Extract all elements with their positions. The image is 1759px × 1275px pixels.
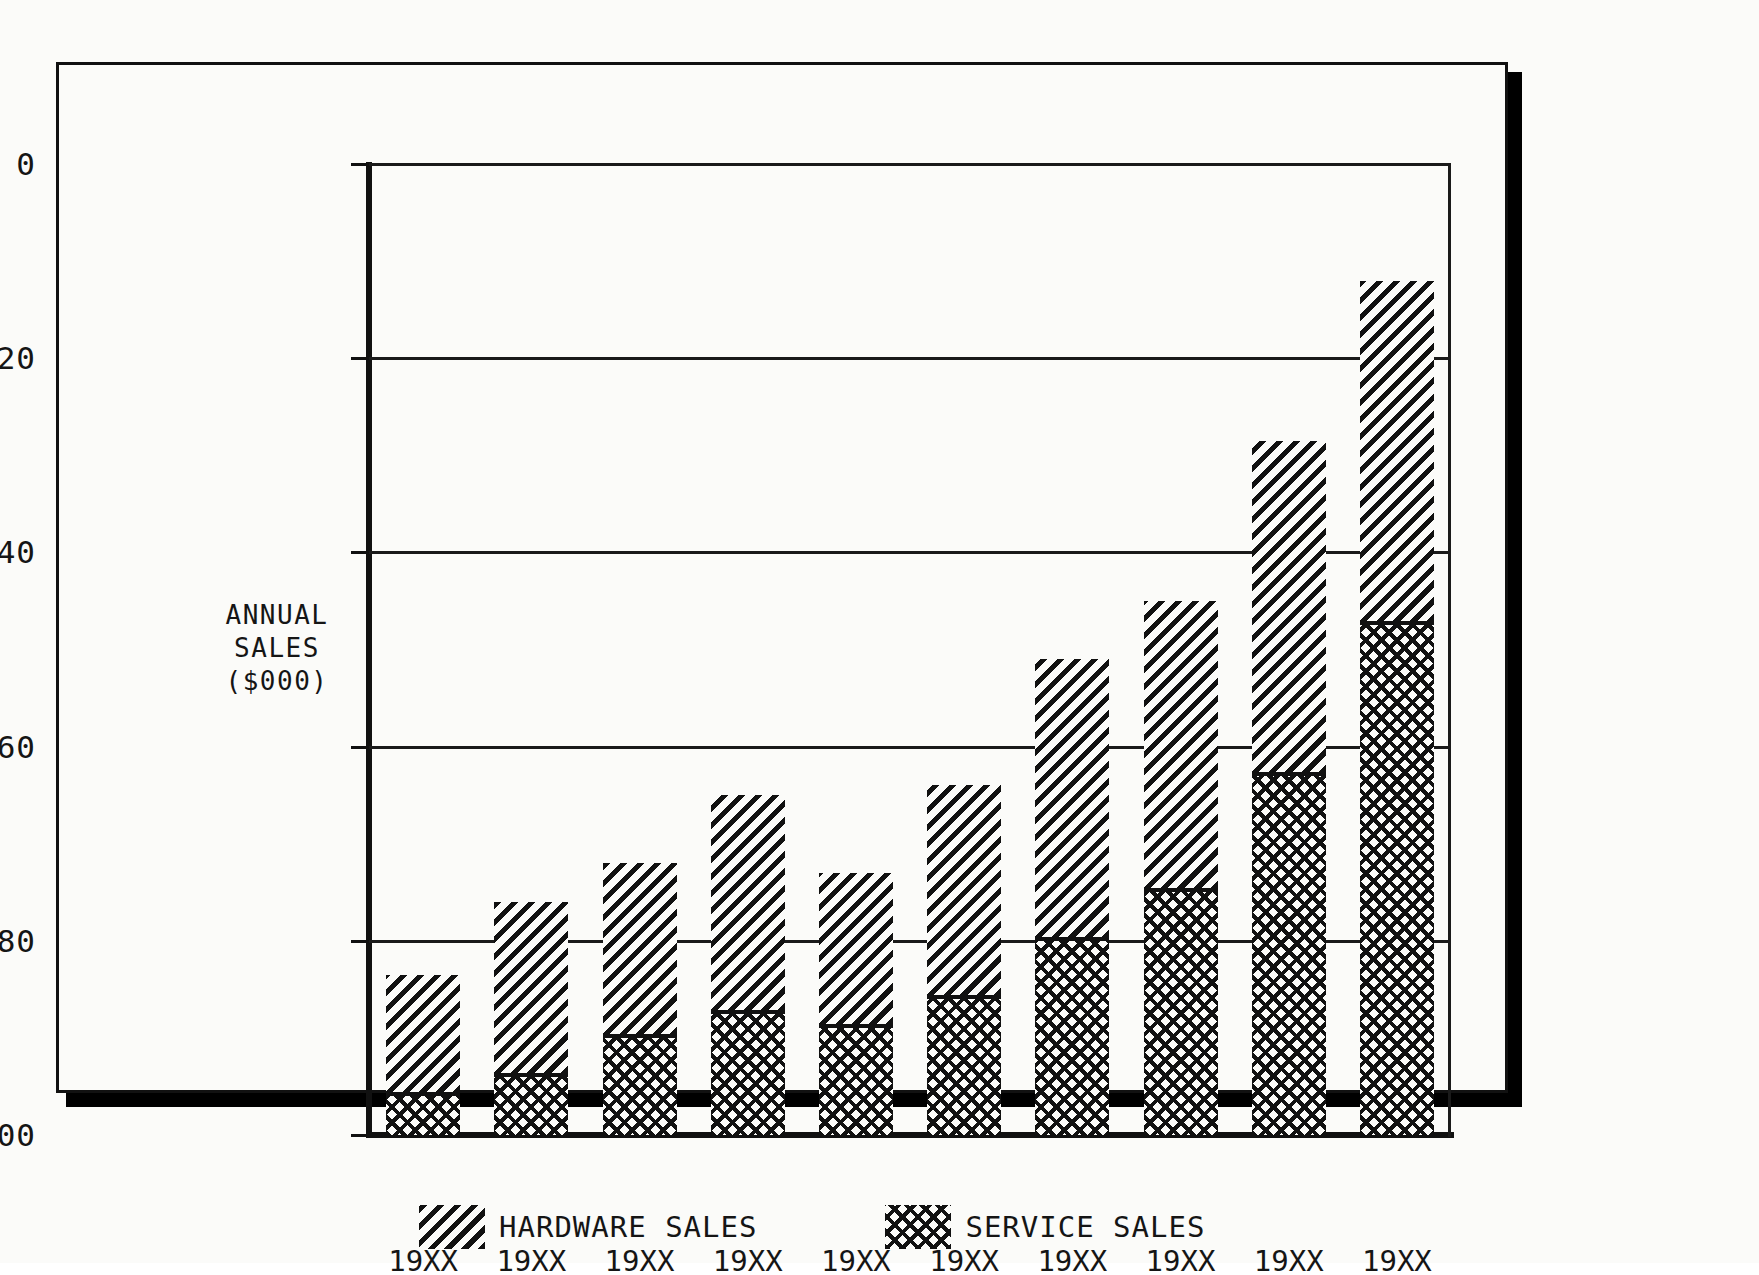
y-axis-tick-label: 80 <box>0 923 36 959</box>
stacked-bar <box>1035 659 1109 1135</box>
legend-entry: SERVICE SALES <box>885 1205 1205 1249</box>
bar-segment-hardware-sales <box>603 863 677 1038</box>
bar-segment-service-sales <box>1035 941 1109 1135</box>
y-axis-tick-label: 40 <box>0 534 36 570</box>
chart-frame: ANNUAL SALES ($000) 19XX19XX19XX19XX19XX… <box>56 62 1508 1093</box>
y-axis-title-line-3: ($000) <box>177 665 377 698</box>
bar-segment-hardware-sales <box>1035 659 1109 941</box>
bar-segment-service-sales <box>386 1096 460 1135</box>
y-axis-tick-label: 100 <box>0 1117 36 1153</box>
bar-segment-service-sales <box>603 1038 677 1135</box>
y-axis-title-line-2: SALES <box>177 632 377 665</box>
y-axis-tick-mark <box>351 163 369 166</box>
stacked-bar <box>1360 281 1434 1135</box>
chart-legend: HARDWARE SALESSERVICE SALES <box>419 1205 1205 1249</box>
legend-swatch-service-icon <box>885 1205 951 1249</box>
y-axis-line <box>366 162 372 1137</box>
bar-segment-service-sales <box>1252 776 1326 1135</box>
bar-segment-service-sales <box>1144 892 1218 1135</box>
y-axis-tick-label: 20 <box>0 340 36 376</box>
y-axis-tick-mark <box>351 746 369 749</box>
plot-area: 19XX19XX19XX19XX19XX19XX19XX19XX19XX19XX… <box>369 164 1451 1135</box>
legend-swatch-hardware-icon <box>419 1205 485 1249</box>
y-axis-title-line-1: ANNUAL <box>177 599 377 632</box>
y-axis-tick-mark <box>351 551 369 554</box>
plot-right-border <box>1448 164 1451 1137</box>
y-axis-tick-mark <box>351 940 369 943</box>
bar-segment-hardware-sales <box>494 902 568 1077</box>
bar-segment-hardware-sales <box>927 785 1001 999</box>
bar-segment-service-sales <box>711 1014 785 1135</box>
stacked-bar <box>1144 601 1218 1135</box>
stacked-bar <box>386 975 460 1135</box>
stacked-bar <box>819 873 893 1135</box>
bar-segment-service-sales <box>1360 625 1434 1135</box>
y-axis-title: ANNUAL SALES ($000) <box>177 599 377 698</box>
gridline <box>369 163 1451 166</box>
bar-segment-hardware-sales <box>1360 281 1434 626</box>
stacked-bar <box>1252 441 1326 1135</box>
x-axis-tick-label: 19XX <box>1327 1244 1467 1275</box>
bar-segment-service-sales <box>819 1028 893 1135</box>
legend-entry: HARDWARE SALES <box>419 1205 757 1249</box>
stacked-bar <box>603 863 677 1135</box>
bar-segment-hardware-sales <box>819 873 893 1028</box>
bar-segment-hardware-sales <box>1144 601 1218 892</box>
bar-segment-hardware-sales <box>1252 441 1326 776</box>
gridline <box>369 357 1451 360</box>
y-axis-tick-mark <box>351 1134 369 1137</box>
y-axis-tick-label: 0 <box>0 146 36 182</box>
y-axis-tick-mark <box>351 357 369 360</box>
bar-segment-hardware-sales <box>711 795 785 1013</box>
stacked-bar <box>711 795 785 1135</box>
stacked-bar <box>927 785 1001 1135</box>
y-axis-tick-label: 60 <box>0 729 36 765</box>
legend-label: SERVICE SALES <box>965 1210 1205 1244</box>
bar-segment-service-sales <box>494 1077 568 1135</box>
bar-segment-hardware-sales <box>386 975 460 1096</box>
legend-label: HARDWARE SALES <box>499 1210 757 1244</box>
bar-segment-service-sales <box>927 999 1001 1135</box>
stacked-bar <box>494 902 568 1135</box>
